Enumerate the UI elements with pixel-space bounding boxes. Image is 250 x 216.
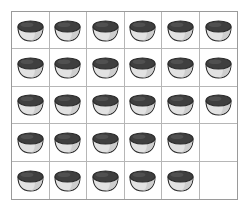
- bowl-icon: [52, 131, 83, 155]
- bowl-top-highlight: [20, 172, 33, 177]
- bowl-icon: [203, 93, 234, 117]
- bowl-top-highlight: [95, 172, 108, 177]
- bowl-icon: [165, 93, 196, 117]
- bowl-top-highlight: [133, 134, 146, 139]
- grid-cell-bowl-r3-c2[interactable]: [50, 87, 88, 124]
- grid-cell-bowl-r5-c5[interactable]: [162, 162, 200, 199]
- grid-cell-bowl-r5-c2[interactable]: [50, 162, 88, 199]
- grid-cell-bowl-r4-c3[interactable]: [87, 124, 125, 161]
- bowl-icon: [90, 19, 121, 43]
- bowl-icon: [127, 169, 158, 193]
- bowl-icon: [52, 169, 83, 193]
- bowl-top-highlight: [133, 172, 146, 177]
- bowl-top-highlight: [170, 134, 183, 139]
- bowl-top-highlight: [133, 97, 146, 102]
- grid-cell-bowl-r3-c3[interactable]: [87, 87, 125, 124]
- grid-cell-bowl-r4-c5[interactable]: [162, 124, 200, 161]
- bowl-icon: [52, 56, 83, 80]
- bowl-icon: [90, 56, 121, 80]
- bowl-icon: [15, 19, 46, 43]
- bowl-icon: [203, 19, 234, 43]
- bowl-icon: [127, 56, 158, 80]
- grid-cell-bowl-r2-c6[interactable]: [200, 49, 238, 86]
- bowl-icon: [165, 56, 196, 80]
- bowl-icon: [90, 169, 121, 193]
- bowl-icon: [15, 131, 46, 155]
- bowl-top-highlight: [95, 22, 108, 27]
- bowl-icon: [127, 131, 158, 155]
- grid-cell-bowl-r1-c1[interactable]: [12, 12, 50, 49]
- bowl-top-highlight: [208, 97, 221, 102]
- grid-cell-bowl-r3-c5[interactable]: [162, 87, 200, 124]
- bowl-top-highlight: [58, 172, 71, 177]
- grid-cell-bowl-r4-c4[interactable]: [125, 124, 163, 161]
- bowl-top-highlight: [208, 60, 221, 65]
- bowl-top-highlight: [95, 134, 108, 139]
- grid-cell-bowl-r1-c6[interactable]: [200, 12, 238, 49]
- bowl-icon: [15, 93, 46, 117]
- bowl-icon: [127, 93, 158, 117]
- bowl-icon: [90, 131, 121, 155]
- bowl-icon: [165, 131, 196, 155]
- bowl-icon: [15, 169, 46, 193]
- grid-cell-bowl-r1-c4[interactable]: [125, 12, 163, 49]
- grid-cell-bowl-r2-c5[interactable]: [162, 49, 200, 86]
- grid-cell-bowl-r2-c1[interactable]: [12, 49, 50, 86]
- grid-cell-bowl-r2-c3[interactable]: [87, 49, 125, 86]
- grid-cell-bowl-r4-c1[interactable]: [12, 124, 50, 161]
- grid-cell-bowl-r1-c2[interactable]: [50, 12, 88, 49]
- grid-cell-bowl-r3-c1[interactable]: [12, 87, 50, 124]
- grid-cell-bowl-r1-c5[interactable]: [162, 12, 200, 49]
- grid-cell-bowl-r2-c4[interactable]: [125, 49, 163, 86]
- bowl-top-highlight: [208, 22, 221, 27]
- bowl-top-highlight: [58, 60, 71, 65]
- grid-cell-empty-r4-c6[interactable]: [200, 124, 238, 161]
- bowl-top-highlight: [170, 172, 183, 177]
- bowl-icon: [15, 56, 46, 80]
- bowl-top-highlight: [95, 97, 108, 102]
- bowl-icon: [90, 93, 121, 117]
- grid-cell-empty-r5-c6[interactable]: [200, 162, 238, 199]
- grid-cell-bowl-r2-c2[interactable]: [50, 49, 88, 86]
- bowl-top-highlight: [170, 60, 183, 65]
- bowl-top-highlight: [133, 60, 146, 65]
- bowl-top-highlight: [20, 97, 33, 102]
- grid-cell-bowl-r5-c3[interactable]: [87, 162, 125, 199]
- bowl-top-highlight: [58, 134, 71, 139]
- grid-cell-bowl-r3-c4[interactable]: [125, 87, 163, 124]
- grid-cell-bowl-r4-c2[interactable]: [50, 124, 88, 161]
- grid-cell-bowl-r1-c3[interactable]: [87, 12, 125, 49]
- grid-cell-bowl-r5-c4[interactable]: [125, 162, 163, 199]
- bowl-icon: [203, 56, 234, 80]
- bowl-inventory-grid: [11, 11, 238, 200]
- bowl-top-highlight: [58, 97, 71, 102]
- bowl-icon: [127, 19, 158, 43]
- bowl-top-highlight: [20, 134, 33, 139]
- bowl-top-highlight: [20, 22, 33, 27]
- grid-cell-bowl-r5-c1[interactable]: [12, 162, 50, 199]
- bowl-top-highlight: [95, 60, 108, 65]
- bowl-top-highlight: [58, 22, 71, 27]
- grid-cell-bowl-r3-c6[interactable]: [200, 87, 238, 124]
- bowl-icon: [52, 19, 83, 43]
- bowl-icon: [165, 169, 196, 193]
- bowl-icon: [52, 93, 83, 117]
- bowl-top-highlight: [133, 22, 146, 27]
- bowl-icon: [165, 19, 196, 43]
- bowl-top-highlight: [170, 97, 183, 102]
- bowl-top-highlight: [170, 22, 183, 27]
- bowl-top-highlight: [20, 60, 33, 65]
